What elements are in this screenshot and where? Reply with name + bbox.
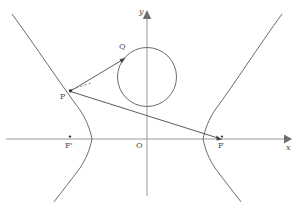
point-dot-p <box>69 89 72 92</box>
geometry-figure: P Q F' F O y x <box>0 0 296 202</box>
y-axis-arrowhead <box>143 10 151 19</box>
label-point-q: Q <box>119 43 126 51</box>
hyperbola-right-branch <box>203 14 282 202</box>
point-dot-f-prime <box>69 135 71 137</box>
hyperbola-left-branch <box>12 14 92 202</box>
figure-canvas <box>0 0 296 202</box>
point-dot-f <box>221 136 223 138</box>
label-point-f-prime: F' <box>65 142 73 150</box>
label-point-f: F <box>218 142 224 150</box>
segment-pq-arrowhead <box>119 58 125 63</box>
segment-pq <box>71 60 124 92</box>
label-x-axis: x <box>286 144 291 152</box>
label-y-axis: y <box>139 8 144 16</box>
label-origin: O <box>136 142 143 150</box>
segment-pf <box>71 92 219 139</box>
label-point-p: P <box>60 93 65 101</box>
